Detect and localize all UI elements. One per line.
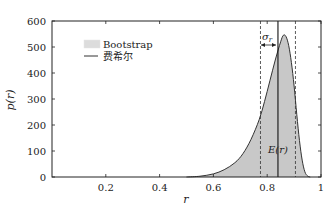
y-tick-label: 200 <box>27 120 46 131</box>
x-tick-label: 0.4 <box>152 182 168 193</box>
x-tick-label: 0.2 <box>98 182 114 193</box>
y-tick-label: 100 <box>27 146 46 157</box>
legend-swatch-bootstrap <box>84 40 100 48</box>
arrow-head-left-icon <box>261 43 265 47</box>
legend-label-fisher: 费希尔 <box>103 50 133 62</box>
y-tick-label: 600 <box>27 16 46 27</box>
bootstrap-fill <box>187 35 311 177</box>
y-axis-label: p(r) <box>4 90 17 111</box>
y-tick-label: 500 <box>27 42 46 53</box>
mean-label: E(r) <box>267 144 288 155</box>
x-axis-label: r <box>183 193 189 206</box>
y-tick-label: 300 <box>27 94 46 105</box>
legend-label-bootstrap: Bootstrap <box>103 39 153 50</box>
chart-figure: 0.20.40.60.81 0100200300400500600 r p(r)… <box>0 0 336 214</box>
sigma-label: σr <box>262 31 273 44</box>
y-tick-label: 400 <box>27 68 46 79</box>
x-tick-label: 0.6 <box>205 182 221 193</box>
bootstrap-area <box>187 35 311 177</box>
legend: Bootstrap 费希尔 <box>84 39 153 62</box>
arrow-head-right-icon <box>272 43 276 47</box>
x-tick-label: 0.8 <box>259 182 275 193</box>
y-tick-label: 0 <box>40 172 46 183</box>
sigma-annotation: σr <box>261 31 276 47</box>
x-tick-label: 1 <box>318 182 324 193</box>
